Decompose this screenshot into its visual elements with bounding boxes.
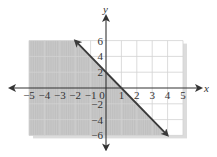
- x-tick-label: −5: [23, 89, 35, 101]
- y-tick-label: 4: [98, 50, 104, 62]
- y-axis-label: y: [102, 3, 108, 15]
- x-tick-label: 5: [180, 89, 186, 101]
- x-tick-label: 3: [149, 89, 155, 101]
- x-tick-label: 2: [134, 89, 140, 101]
- inequality-graph: −5−4−3−2−1012345−6−4−2246 x y: [0, 0, 217, 157]
- x-axis-label: x: [203, 82, 209, 94]
- x-tick-label: −4: [39, 89, 51, 101]
- x-tick-label: −2: [69, 89, 81, 101]
- y-tick-label: −2: [91, 98, 103, 110]
- y-tick-label: −6: [91, 129, 103, 141]
- x-tick-label: −3: [54, 89, 66, 101]
- y-tick-label: −4: [91, 114, 103, 126]
- y-tick-label: 6: [98, 35, 104, 47]
- x-tick-label: 4: [165, 89, 171, 101]
